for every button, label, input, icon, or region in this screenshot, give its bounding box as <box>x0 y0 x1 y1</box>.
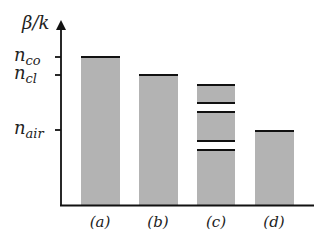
tick-label-base: n <box>14 117 26 138</box>
tick-label-sub: cl <box>26 71 37 86</box>
tick-label-n-air: nair <box>14 117 44 138</box>
x-label-d: (d) <box>254 213 294 231</box>
tick-label-sub: air <box>26 126 44 141</box>
band-diagram <box>0 0 326 240</box>
bar-c-band-1 <box>197 150 235 205</box>
x-label-a: (a) <box>80 213 120 231</box>
bar-a <box>81 57 120 205</box>
bar-c-band-2 <box>197 112 235 141</box>
y-axis-arrow-icon <box>56 20 66 30</box>
x-label-b: (b) <box>138 213 178 231</box>
bar-d <box>255 131 294 205</box>
x-label-c: (c) <box>196 213 236 231</box>
tick-label-n-cl: ncl <box>14 62 37 83</box>
tick-label-base: n <box>14 62 26 83</box>
bar-b <box>139 75 178 205</box>
y-axis-label: β/k <box>22 12 49 33</box>
bar-c-band-3 <box>197 85 235 103</box>
